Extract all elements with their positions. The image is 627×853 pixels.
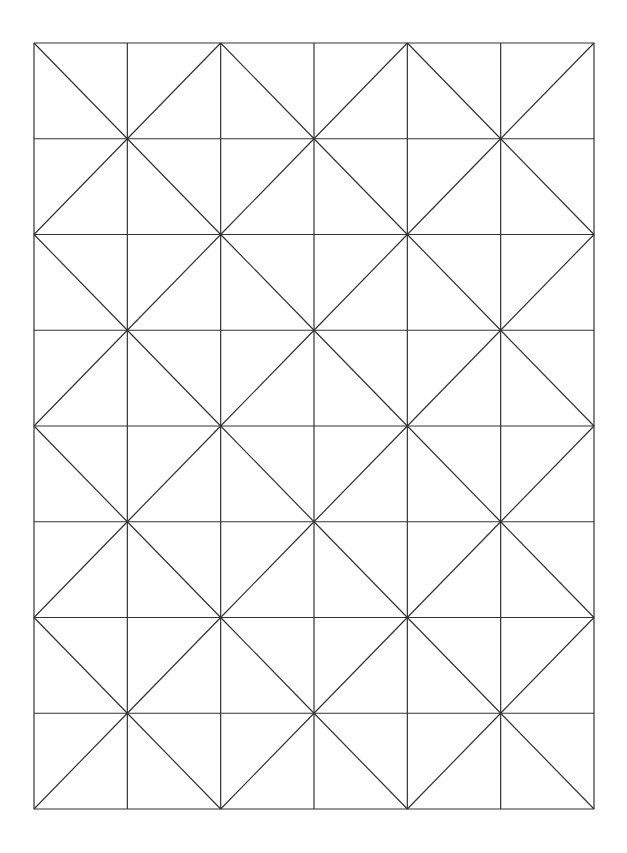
diagonal-line [34,139,127,235]
diagonal-line [501,522,594,618]
grid-lines [34,43,594,809]
diagonal-line [221,618,314,714]
diagonal-line [314,618,407,714]
diagonal-line [127,618,220,714]
diagonal-line [501,713,594,809]
diagonal-line [221,713,314,809]
diagonal-line [221,139,314,235]
diagonal-line [34,618,127,714]
triangle-grid-canvas [0,0,627,853]
diagonal-line [501,618,594,714]
diagonal-line [501,330,594,426]
diagonal-line [407,426,500,522]
diagonal-line [407,713,500,809]
diagonal-line [501,139,594,235]
diagonal-line [127,235,220,331]
diagonal-line [221,43,314,139]
diagonal-line [501,426,594,522]
diagonal-line [501,43,594,139]
diagonal-line [34,235,127,331]
diagonal-line [407,235,500,331]
diagonal-line [127,522,220,618]
diagonal-line [34,43,127,139]
diagonal-line [314,713,407,809]
diagonal-line [314,522,407,618]
diagonal-line [221,426,314,522]
diagonal-line [34,522,127,618]
diagonal-line [127,713,220,809]
diagonal-line [314,330,407,426]
diagonal-line [34,330,127,426]
diagonal-line [221,235,314,331]
diagonal-line [221,330,314,426]
diagonal-line [34,426,127,522]
diagonal-line [127,43,220,139]
diagonal-line [314,235,407,331]
diagonal-line [501,235,594,331]
diagonal-line [127,330,220,426]
diagonal-line [314,139,407,235]
diagonal-line [34,713,127,809]
diagonal-line [407,43,500,139]
diagonal-line [314,43,407,139]
diagonal-line [407,522,500,618]
diagonal-line [407,330,500,426]
diagonal-line [127,426,220,522]
diagonal-line [127,139,220,235]
diagonal-line [407,139,500,235]
diagonal-line [314,426,407,522]
diagonal-line [221,522,314,618]
diagonal-line [407,618,500,714]
